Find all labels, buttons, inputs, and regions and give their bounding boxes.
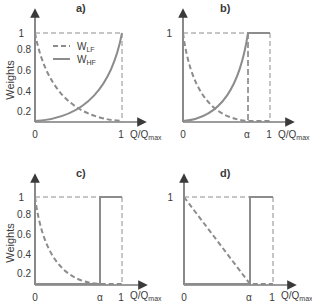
svg-text:1: 1 — [18, 192, 24, 203]
svg-text:0.6: 0.6 — [17, 229, 31, 240]
svg-text:0: 0 — [180, 129, 186, 140]
svg-text:1: 1 — [269, 292, 275, 303]
legend-lf-label: WLF — [77, 41, 95, 53]
panel-title-d: d) — [220, 167, 231, 179]
panel-title-b: b) — [220, 2, 231, 14]
svg-text:α: α — [244, 129, 250, 140]
svg-text:0.8: 0.8 — [17, 209, 31, 220]
svg-text:α: α — [246, 292, 252, 303]
svg-text:0: 0 — [32, 129, 38, 140]
svg-text:0.4: 0.4 — [17, 86, 31, 97]
panel-d: d) 1 0 α 1 Q/Qmax — [167, 167, 312, 303]
wlf-curve — [35, 197, 122, 284]
svg-text:1: 1 — [118, 292, 124, 303]
svg-text:α: α — [97, 292, 103, 303]
svg-text:0.2: 0.2 — [17, 106, 31, 117]
svg-text:0.6: 0.6 — [17, 65, 31, 76]
svg-text:0.8: 0.8 — [17, 44, 31, 55]
svg-text:1: 1 — [166, 28, 172, 39]
svg-text:1: 1 — [18, 28, 24, 39]
y-axis-label: Weights — [4, 60, 16, 100]
panel-a: a) 1 0.8 0.6 0.4 0.2 0 1 Q/Qmax Weights … — [4, 2, 162, 141]
svg-text:Q/Qmax: Q/Qmax — [278, 129, 310, 141]
figure: a) 1 0.8 0.6 0.4 0.2 0 1 Q/Qmax Weights … — [0, 0, 312, 306]
svg-text:0.4: 0.4 — [17, 249, 31, 260]
svg-text:Q/Qmax: Q/Qmax — [130, 129, 162, 141]
svg-text:Q/Qmax: Q/Qmax — [281, 290, 312, 302]
svg-text:1: 1 — [266, 129, 272, 140]
svg-text:1: 1 — [118, 129, 124, 140]
svg-text:0.2: 0.2 — [17, 268, 31, 279]
legend-hf-label: WHF — [77, 54, 96, 66]
svg-text:0: 0 — [181, 292, 187, 303]
panel-b: b) 1 0 α 1 Q/Qmax — [166, 2, 310, 141]
wlf-curve — [184, 197, 273, 284]
svg-text:0: 0 — [32, 292, 38, 303]
whf-curve — [35, 197, 122, 284]
wlf-curve — [183, 33, 270, 121]
whf-curve — [184, 197, 273, 284]
panel-title-c: c) — [76, 167, 86, 179]
svg-text:1: 1 — [167, 192, 173, 203]
panel-c: c) 1 0.8 0.6 0.4 0.2 0 α 1 Q/Qmax Weight… — [4, 167, 162, 303]
svg-text:Q/Qmax: Q/Qmax — [130, 290, 162, 302]
whf-curve — [183, 33, 270, 121]
panel-title-a: a) — [76, 2, 86, 14]
y-axis-label: Weights — [4, 223, 16, 263]
